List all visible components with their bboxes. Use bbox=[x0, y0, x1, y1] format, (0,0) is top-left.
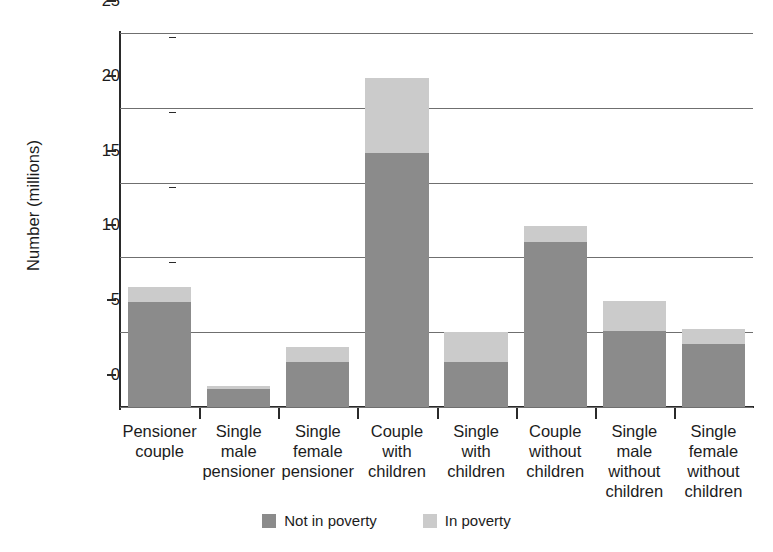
bar-segment-not-in-poverty bbox=[207, 389, 270, 407]
y-tick-mark-5 bbox=[107, 299, 116, 301]
y-tick-mark-15 bbox=[107, 150, 116, 152]
legend-item: In poverty bbox=[423, 512, 511, 529]
y-tick-mark-25 bbox=[107, 0, 116, 2]
bar-segment-in-poverty bbox=[286, 347, 349, 362]
x-label-single-female-without-children: Singlefemalewithoutchildren bbox=[670, 421, 757, 501]
y-tick-mark-10 bbox=[107, 224, 116, 226]
y-tick-mark-0 bbox=[107, 374, 116, 376]
x-label-single-with-children: Singlewithchildren bbox=[433, 421, 520, 481]
bar-segment-not-in-poverty bbox=[682, 344, 745, 407]
bar-segment-not-in-poverty bbox=[286, 362, 349, 407]
legend-swatch-icon bbox=[423, 514, 437, 528]
bar-segment-in-poverty bbox=[603, 301, 666, 331]
bar-segment-in-poverty bbox=[128, 287, 191, 302]
chart-legend: Not in povertyIn poverty bbox=[0, 512, 773, 529]
x-tick-mark bbox=[595, 408, 597, 419]
stacked-bar-chart: Number (millions) 0510152025 Pensionerco… bbox=[0, 0, 773, 552]
x-tick-mark bbox=[516, 408, 518, 419]
x-label-couple-without-children: Couplewithoutchildren bbox=[512, 421, 599, 481]
y-axis-title: Number (millions) bbox=[24, 76, 43, 336]
x-label-pensioner-couple: Pensionercouple bbox=[116, 421, 203, 461]
bar-segment-in-poverty bbox=[207, 386, 270, 389]
bar-column bbox=[524, 33, 587, 407]
legend-label: In poverty bbox=[445, 512, 511, 529]
bar-segment-in-poverty bbox=[444, 332, 507, 362]
x-tick-mark bbox=[437, 408, 439, 419]
x-label-single-male-pensioner: Singlemalepensioner bbox=[195, 421, 282, 481]
bar-segment-in-poverty bbox=[682, 329, 745, 344]
bar-segment-not-in-poverty bbox=[128, 302, 191, 407]
x-axis-category-labels: PensionercoupleSinglemalepensionerSingle… bbox=[120, 421, 753, 499]
bar-segment-not-in-poverty bbox=[603, 331, 666, 407]
bar-segment-not-in-poverty bbox=[524, 242, 587, 407]
x-tick-mark bbox=[199, 408, 201, 419]
bar-column bbox=[286, 33, 349, 407]
x-label-single-male-without-children: Singlemalewithoutchildren bbox=[591, 421, 678, 501]
y-axis-ticks: 0510152025 bbox=[56, 0, 120, 374]
legend-label: Not in poverty bbox=[284, 512, 377, 529]
x-label-single-female-pensioner: Singlefemalepensioner bbox=[274, 421, 361, 481]
bar-column bbox=[207, 33, 270, 407]
legend-swatch-icon bbox=[262, 514, 276, 528]
bar-segment-in-poverty bbox=[524, 226, 587, 242]
bar-segment-in-poverty bbox=[365, 78, 428, 153]
bar-column bbox=[603, 33, 666, 407]
bar-series-group bbox=[120, 33, 753, 407]
x-tick-mark bbox=[357, 408, 359, 419]
y-tick-mark-20 bbox=[107, 75, 116, 77]
legend-item: Not in poverty bbox=[262, 512, 377, 529]
x-tick-mark bbox=[674, 408, 676, 419]
x-tick-mark bbox=[278, 408, 280, 419]
bar-column bbox=[128, 33, 191, 407]
bar-column bbox=[365, 33, 428, 407]
bar-segment-not-in-poverty bbox=[365, 153, 428, 407]
bar-column bbox=[682, 33, 745, 407]
bar-column bbox=[444, 33, 507, 407]
x-label-couple-with-children: Couplewithchildren bbox=[353, 421, 440, 481]
bar-segment-not-in-poverty bbox=[444, 362, 507, 407]
